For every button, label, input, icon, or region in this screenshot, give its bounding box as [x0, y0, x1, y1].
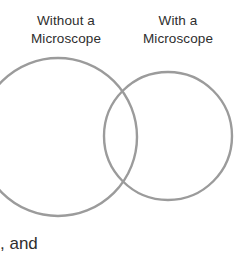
circle-without-a-microscope: [0, 58, 137, 216]
label-with-a-microscope: With a Microscope: [118, 12, 238, 48]
label-without-a-microscope: Without a Microscope: [6, 12, 126, 48]
circle-with-a-microscope: [104, 72, 232, 200]
label-with-a-microscope-line2: Microscope: [118, 30, 238, 48]
label-without-a-microscope-line2: Microscope: [6, 30, 126, 48]
venn-diagram-figure: Without a Microscope With a Microscope ,…: [0, 0, 244, 264]
label-with-a-microscope-line1: With a: [118, 12, 238, 30]
label-without-a-microscope-line1: Without a: [6, 12, 126, 30]
trailing-text-fragment: , and: [0, 233, 38, 255]
